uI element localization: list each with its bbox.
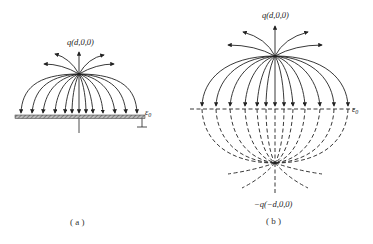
plate-field-lines-a: [21, 74, 137, 113]
image-field-lines-b: [202, 109, 348, 195]
ground-icon: [137, 119, 147, 128]
panel-b: q(d,0,0) ε0: [190, 10, 358, 226]
outward-field-lines-a: [44, 52, 114, 74]
panel-a: q(d,0,0): [15, 37, 151, 227]
charge-label-b: q(d,0,0): [262, 10, 289, 20]
caption-b: ( b ): [266, 216, 281, 226]
real-field-lines-b: [202, 56, 348, 106]
charge-label-a: q(d,0,0): [67, 37, 94, 47]
permittivity-label-b: ε0: [352, 104, 358, 115]
image-charge-label: −q(−d,0,0): [254, 199, 293, 209]
permittivity-label-a: ε0: [145, 107, 151, 118]
conducting-plate: [15, 115, 145, 119]
caption-a: ( a ): [70, 217, 85, 227]
diagram-canvas: q(d,0,0): [0, 0, 373, 244]
image-charge-point: [274, 162, 277, 165]
outward-field-lines-b: [228, 26, 322, 56]
